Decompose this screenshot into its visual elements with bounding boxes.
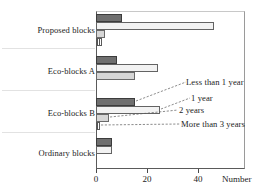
bar-ordinary-blocks-less-than-1-year	[96, 138, 112, 146]
annotation-more-than-3-years: More than 3 years	[181, 119, 245, 129]
xtick-label-20: 20	[134, 174, 160, 185]
category-label-proposed-blocks: Proposed blocks	[38, 25, 95, 35]
plot-area	[96, 11, 245, 169]
x-axis-title: Number	[222, 174, 252, 185]
xtick-20	[147, 169, 148, 173]
bar-proposed-blocks-more-than-3-years	[96, 38, 102, 46]
xtick-label-40: 40	[185, 174, 211, 185]
bar-eco-blocks-b-more-than-3-years	[96, 122, 100, 130]
bar-eco-blocks-a-2-years	[96, 72, 135, 80]
annotation-less-than-1-year: Less than 1 year	[186, 77, 244, 87]
category-separator	[2, 132, 95, 133]
bar-eco-blocks-a-1-year	[96, 64, 158, 72]
annotation-1-year: 1 year	[191, 93, 213, 103]
category-separator	[2, 48, 95, 49]
xtick-label-0: 0	[83, 174, 109, 185]
annotation-2-years: 2 years	[179, 105, 204, 115]
bar-chart: Proposed blocks Eco-blocks A Eco-blocks …	[0, 0, 277, 196]
category-separator	[2, 90, 95, 91]
category-label-eco-blocks-b: Eco-blocks B	[48, 108, 95, 118]
category-label-eco-blocks-a: Eco-blocks A	[48, 66, 95, 76]
xtick-40	[198, 169, 199, 173]
bar-proposed-blocks-less-than-1-year	[96, 14, 122, 22]
category-label-ordinary-blocks: Ordinary blocks	[38, 148, 95, 158]
bar-proposed-blocks-1-year	[96, 22, 214, 30]
bar-ordinary-blocks-1-year	[96, 146, 112, 154]
bar-eco-blocks-a-less-than-1-year	[96, 56, 117, 64]
xtick-0	[96, 169, 97, 173]
bar-eco-blocks-b-less-than-1-year	[96, 98, 135, 106]
bar-eco-blocks-b-2-years	[96, 114, 109, 122]
bar-proposed-blocks-2-years	[96, 30, 105, 38]
bar-eco-blocks-b-1-year	[96, 106, 160, 114]
